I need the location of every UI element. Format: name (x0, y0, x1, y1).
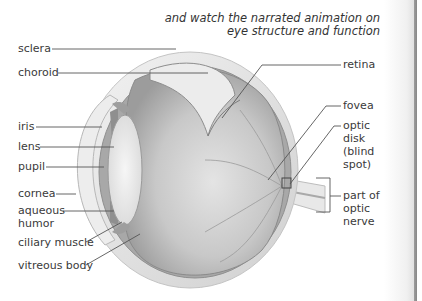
label-lens: lens (18, 140, 41, 153)
label-optic-disk-line4: spot) (343, 158, 371, 171)
label-vitreous-body: vitreous body (18, 259, 93, 272)
label-fovea: fovea (343, 99, 374, 112)
label-iris: iris (18, 120, 34, 133)
label-cornea: cornea (18, 187, 56, 200)
lens-shape (108, 115, 142, 225)
label-ciliary-muscle: ciliary muscle (18, 236, 94, 249)
label-choroid: choroid (18, 66, 59, 79)
label-optic-disk-line2: disk (343, 132, 365, 145)
label-optic-nerve-line3: nerve (343, 215, 375, 228)
label-aqueous-humor-line2: humor (18, 217, 54, 230)
label-optic-nerve-line2: optic (343, 202, 370, 215)
label-sclera: sclera (18, 42, 51, 55)
label-retina: retina (343, 58, 375, 71)
label-optic-disk-line3: (blind (343, 145, 374, 158)
label-pupil: pupil (18, 160, 45, 173)
label-optic-disk-line1: optic (343, 119, 370, 132)
label-aqueous-humor-line1: aqueous (18, 204, 65, 217)
label-optic-nerve-line1: part of (343, 189, 380, 202)
